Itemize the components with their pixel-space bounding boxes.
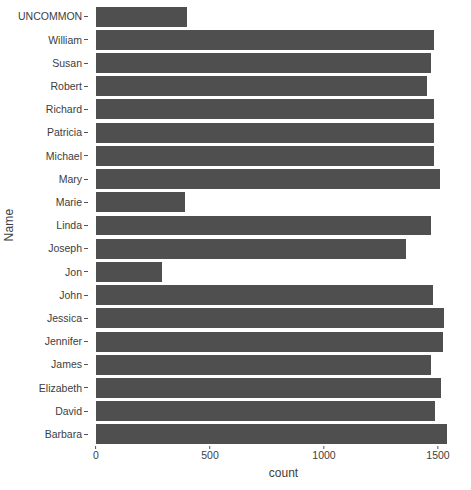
bar [96,401,435,421]
y-axis-tick-mark [84,271,88,272]
bar [96,262,162,282]
bar [96,355,431,375]
y-axis-tick-label: Jessica [47,313,82,324]
y-axis-tick-label: Mary [59,174,82,185]
y-axis-tick: David [18,401,88,421]
y-axis-tick-mark [84,16,88,17]
bar [96,378,441,398]
y-axis-tick-mark [84,434,88,435]
y-axis-tick: John [18,285,88,305]
bar [96,192,185,212]
y-axis-tick-mark [84,155,88,156]
bar [96,76,427,96]
y-axis-tick-mark [84,248,88,249]
bar [96,169,440,189]
y-axis-tick: Joseph [18,239,88,259]
y-axis-tick-mark [84,318,88,319]
y-axis-tick-label: William [48,35,82,46]
y-axis-tick-mark [84,364,88,365]
y-axis-tick-mark [84,63,88,64]
y-axis-tick: Marie [18,192,88,212]
x-axis: 050010001500 [96,446,471,468]
y-axis-tick: UNCOMMON [18,7,88,27]
x-axis-tick-label: 500 [201,450,219,461]
y-axis-tick-mark [84,39,88,40]
y-axis-tick-mark [84,341,88,342]
y-axis-tick-label: Joseph [48,243,82,254]
bar [96,30,434,50]
y-axis-tick: Elizabeth [18,378,88,398]
y-axis-tick-label: Jon [65,267,82,278]
y-axis-tick: Jessica [18,308,88,328]
y-axis-tick-label: Elizabeth [39,383,82,394]
x-axis-tick: 1500 [426,446,449,461]
y-axis-tick-label: Linda [56,220,82,231]
y-axis-tick-mark [84,202,88,203]
y-axis-tick-mark [84,132,88,133]
y-axis-tick-label: Robert [50,81,82,92]
bar [96,123,434,143]
y-axis-tick-label: Marie [56,197,82,208]
y-axis-tick-label: David [55,406,82,417]
x-axis-tick-label: 0 [93,450,99,461]
y-axis-tick-mark [84,411,88,412]
x-axis-tick-label: 1000 [312,450,335,461]
y-axis-tick-label: Jennifer [45,336,82,347]
y-axis-tick: Jennifer [18,332,88,352]
x-axis-tick: 500 [201,446,219,461]
y-axis-tick-mark [84,225,88,226]
y-axis-tick-label: James [51,359,82,370]
y-axis-tick: Susan [18,53,88,73]
y-axis-title-label: Name [2,209,16,242]
x-axis-tick-label: 1500 [426,450,449,461]
y-axis-tick-labels: UNCOMMONWilliamSusanRobertRichardPatrici… [18,5,88,446]
y-axis-tick-mark [84,86,88,87]
y-axis-tick-mark [84,295,88,296]
bar [96,99,434,119]
y-axis-tick-mark [84,179,88,180]
y-axis-tick-mark [84,109,88,110]
y-axis-tick: Mary [18,169,88,189]
y-axis-tick-label: Michael [46,151,82,162]
y-axis-tick-label: UNCOMMON [18,11,82,22]
x-axis-title: count [96,466,471,480]
y-axis-tick-label: John [59,290,82,301]
y-axis-tick-label: Susan [52,58,82,69]
bar [96,239,406,259]
y-axis-tick-label: Richard [46,104,82,115]
y-axis-tick-mark [84,387,88,388]
y-axis-tick-label: Barbara [45,429,82,440]
y-axis-title: Name [0,0,18,450]
bar [96,424,447,444]
bar [96,146,434,166]
y-axis-tick: Linda [18,216,88,236]
bar [96,308,444,328]
y-axis-tick: Barbara [18,424,88,444]
y-axis-tick: Patricia [18,123,88,143]
bar [96,7,187,27]
y-axis-tick: James [18,355,88,375]
x-axis-tick: 0 [93,446,99,461]
y-axis-tick: William [18,30,88,50]
plot-area [96,5,471,446]
bar [96,332,443,352]
x-axis-tick: 1000 [312,446,335,461]
bar [96,285,433,305]
bar [96,216,431,236]
bar [96,53,431,73]
y-axis-tick-label: Patricia [47,127,82,138]
y-axis-tick: Richard [18,99,88,119]
y-axis-tick: Robert [18,76,88,96]
y-axis-tick: Michael [18,146,88,166]
y-axis-tick: Jon [18,262,88,282]
bar-chart: Name UNCOMMONWilliamSusanRobertRichardPa… [0,0,471,490]
